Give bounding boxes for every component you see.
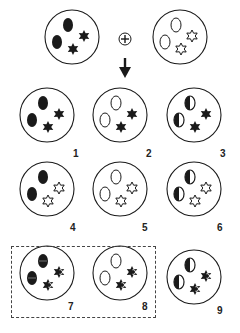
option-label-7: 7 [68, 301, 74, 312]
option-label-6: 6 [217, 222, 223, 233]
oval-filled-icon [52, 35, 62, 49]
option-label-9: 9 [217, 305, 223, 316]
diagram: 1 2 3 4 5 6 7 8 9 [0, 0, 240, 333]
option-circle-6 [167, 162, 221, 216]
oval-empty-icon [111, 96, 121, 110]
oval-filled-icon [38, 96, 48, 110]
option-label-8: 8 [142, 301, 148, 312]
option-circle-5 [93, 162, 147, 216]
option-label-1: 1 [73, 148, 79, 159]
option-label-5: 5 [142, 222, 148, 233]
oval-empty-icon [100, 187, 110, 201]
down-arrow-icon [119, 58, 131, 78]
oval-filled-icon [27, 113, 37, 127]
option-label-2: 2 [146, 148, 152, 159]
oval-empty-icon [160, 35, 170, 49]
parent-circle-b [153, 10, 207, 64]
parent-circle-a [45, 10, 99, 64]
option-label-3: 3 [220, 148, 226, 159]
oval-empty-icon [171, 18, 181, 32]
option-circle-4 [20, 162, 74, 216]
option-circle-9 [167, 250, 221, 304]
oval-filled-icon [63, 18, 73, 32]
highlight-box [11, 246, 156, 318]
oval-filled-icon [38, 170, 48, 184]
option-circle-1 [20, 88, 74, 142]
oval-filled-icon [27, 187, 37, 201]
option-circle-2 [93, 88, 147, 142]
option-label-4: 4 [70, 222, 76, 233]
option-circle-3 [167, 88, 221, 142]
oval-empty-icon [111, 170, 121, 184]
oval-empty-icon [100, 113, 110, 127]
circled-plus-icon [119, 33, 131, 45]
